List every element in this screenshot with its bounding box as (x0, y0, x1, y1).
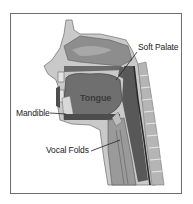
label-mandible: Mandible (16, 108, 50, 118)
mouth-floor (64, 114, 120, 120)
label-soft-palate: Soft Palate (138, 42, 178, 52)
label-tongue: Tongue (80, 93, 111, 103)
lower-lip (56, 86, 60, 108)
upper-teeth (58, 72, 64, 82)
label-vocal-folds: Vocal Folds (46, 145, 89, 155)
